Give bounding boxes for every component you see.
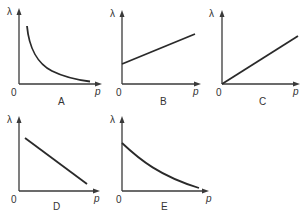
y-axis-label: λ — [7, 7, 12, 17]
panel-e — [120, 116, 210, 194]
y-axis-arrow-icon — [17, 116, 22, 123]
panel-d — [17, 116, 101, 194]
y-axis-arrow-icon — [220, 10, 225, 17]
origin-label: 0 — [216, 88, 222, 98]
panel-title-e: E — [161, 202, 168, 212]
panel-title-b: B — [160, 97, 167, 107]
y-axis-arrow-icon — [120, 10, 125, 17]
panel-title-c: C — [259, 97, 266, 107]
panel-title-a: A — [58, 97, 65, 107]
panel-a — [17, 8, 103, 87]
x-axis-label: p — [94, 194, 100, 204]
y-axis-label: λ — [110, 9, 115, 19]
origin-label: 0 — [116, 88, 122, 98]
x-axis-label: p — [95, 87, 101, 97]
panel-title-d: D — [53, 202, 60, 212]
panel-c — [220, 10, 301, 87]
panel-b — [120, 10, 202, 87]
curve-a — [27, 26, 90, 82]
y-axis-arrow-icon — [17, 8, 22, 15]
curve-b — [122, 34, 195, 64]
curve-c — [222, 36, 298, 84]
x-axis-label: p — [293, 87, 299, 97]
origin-label: 0 — [11, 88, 17, 98]
x-axis-label: p — [206, 194, 212, 204]
origin-label: 0 — [116, 195, 122, 205]
curve-e — [122, 143, 199, 188]
y-axis-arrow-icon — [120, 116, 125, 123]
x-axis-label: p — [193, 87, 199, 97]
y-axis-label: λ — [209, 9, 214, 19]
y-axis-label: λ — [7, 115, 12, 125]
origin-label: 0 — [11, 195, 17, 205]
curve-d — [25, 138, 87, 184]
y-axis-label: λ — [110, 115, 115, 125]
